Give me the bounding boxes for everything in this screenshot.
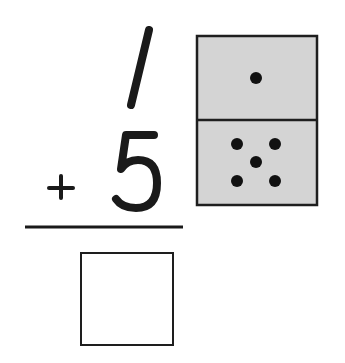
plus-icon [49,176,73,198]
addition-worksheet: 1 + 5 [0,0,345,363]
addend-bottom-digit [116,135,157,208]
dot-icon [250,72,262,84]
dot-icon [250,156,262,168]
dot-icon [269,138,281,150]
addend-top-digit [131,30,149,105]
answer-box[interactable] [80,252,174,346]
dot-icon [269,175,281,187]
domino-top-half [250,72,262,84]
dot-icon [231,175,243,187]
dot-icon [231,138,243,150]
domino [197,36,317,205]
